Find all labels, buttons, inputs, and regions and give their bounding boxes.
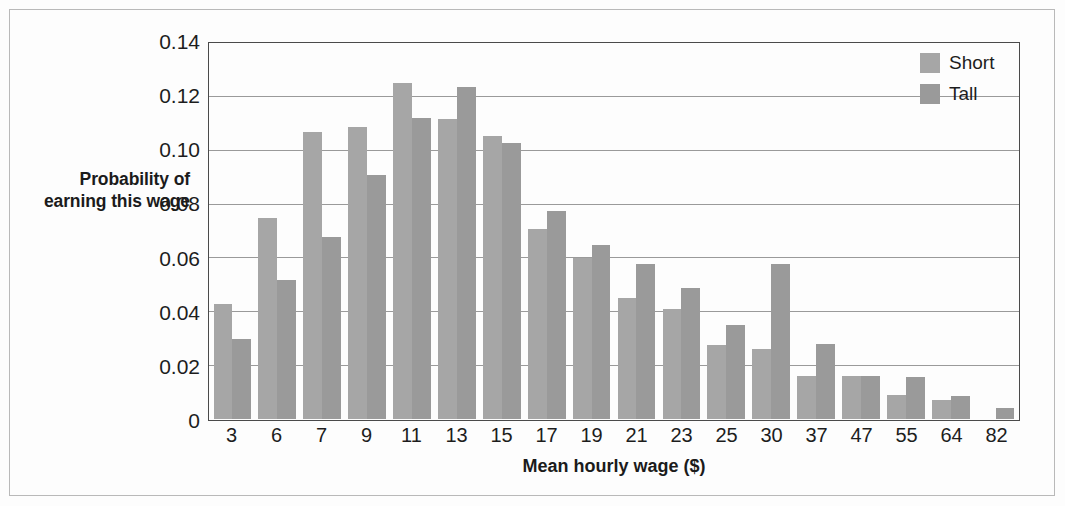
bar-group bbox=[255, 44, 300, 419]
bar-tall-9 bbox=[367, 175, 386, 419]
y-tick-label: 0.12 bbox=[138, 84, 200, 108]
bar-tall-82 bbox=[996, 408, 1015, 419]
bar-tall-21 bbox=[636, 264, 655, 419]
x-tick-label: 23 bbox=[659, 424, 704, 447]
bar-group bbox=[569, 44, 614, 419]
y-tick-label: 0 bbox=[138, 409, 200, 433]
plot-area bbox=[208, 42, 1020, 421]
y-tick-label: 0.14 bbox=[138, 30, 200, 54]
bar-group bbox=[345, 44, 390, 419]
x-tick-label: 17 bbox=[524, 424, 569, 447]
bar-tall-13 bbox=[457, 87, 476, 419]
plot-inner bbox=[209, 43, 1019, 420]
bar-short-21 bbox=[618, 298, 637, 419]
bar-tall-7 bbox=[322, 237, 341, 419]
y-tick-label: 0.08 bbox=[138, 192, 200, 216]
bar-group bbox=[749, 44, 794, 419]
bar-tall-17 bbox=[547, 211, 566, 419]
bar-short-25 bbox=[707, 345, 726, 419]
x-tick-label: 6 bbox=[254, 424, 299, 447]
legend-swatch-short bbox=[920, 53, 940, 73]
x-tick-label: 47 bbox=[839, 424, 884, 447]
x-axis-tick-labels: 36791113151719212325303747556482 bbox=[209, 424, 1019, 447]
bar-short-55 bbox=[887, 395, 906, 419]
bar-short-6 bbox=[258, 218, 277, 419]
bar-tall-15 bbox=[502, 143, 521, 419]
bar-group bbox=[210, 44, 255, 419]
y-tick-label: 0.02 bbox=[138, 355, 200, 379]
bar-short-3 bbox=[214, 304, 233, 419]
chart-legend: Short Tall bbox=[920, 52, 994, 105]
bar-groups bbox=[210, 44, 1018, 419]
y-axis-tick-labels: 00.020.040.060.080.100.120.14 bbox=[130, 42, 200, 421]
legend-item-tall: Tall bbox=[920, 83, 994, 105]
y-tick-label: 0.06 bbox=[138, 247, 200, 271]
bar-short-7 bbox=[303, 132, 322, 419]
x-tick-label: 11 bbox=[389, 424, 434, 447]
x-tick-label: 19 bbox=[569, 424, 614, 447]
x-tick-label: 55 bbox=[884, 424, 929, 447]
bar-group bbox=[524, 44, 569, 419]
bar-group bbox=[614, 44, 659, 419]
bar-short-23 bbox=[663, 309, 682, 419]
x-tick-label: 21 bbox=[614, 424, 659, 447]
bar-tall-30 bbox=[771, 264, 790, 419]
bar-short-9 bbox=[348, 127, 367, 419]
legend-label-short: Short bbox=[949, 52, 994, 74]
bar-short-30 bbox=[752, 349, 771, 419]
x-tick-label: 82 bbox=[974, 424, 1019, 447]
bar-tall-6 bbox=[277, 280, 296, 419]
bar-tall-55 bbox=[906, 377, 925, 419]
legend-label-tall: Tall bbox=[949, 83, 978, 105]
bar-tall-37 bbox=[816, 344, 835, 419]
bar-short-17 bbox=[528, 229, 547, 419]
bar-short-47 bbox=[842, 376, 861, 419]
bar-tall-25 bbox=[726, 325, 745, 419]
bar-tall-3 bbox=[232, 339, 251, 419]
bar-tall-23 bbox=[681, 288, 700, 419]
legend-item-short: Short bbox=[920, 52, 994, 74]
x-tick-label: 30 bbox=[749, 424, 794, 447]
bar-short-64 bbox=[932, 400, 951, 419]
x-tick-label: 15 bbox=[479, 424, 524, 447]
x-tick-label: 13 bbox=[434, 424, 479, 447]
x-tick-label: 7 bbox=[299, 424, 344, 447]
y-tick-label: 0.04 bbox=[138, 301, 200, 325]
bar-group bbox=[300, 44, 345, 419]
bar-tall-47 bbox=[861, 376, 880, 419]
bar-tall-19 bbox=[592, 245, 611, 419]
bar-short-19 bbox=[573, 258, 592, 419]
x-tick-label: 3 bbox=[209, 424, 254, 447]
bar-tall-11 bbox=[412, 118, 431, 419]
bar-group bbox=[794, 44, 839, 419]
bar-group bbox=[390, 44, 435, 419]
bar-group bbox=[704, 44, 749, 419]
bar-group bbox=[434, 44, 479, 419]
x-tick-label: 64 bbox=[929, 424, 974, 447]
bar-short-11 bbox=[393, 83, 412, 419]
bar-group bbox=[838, 44, 883, 419]
x-tick-label: 25 bbox=[704, 424, 749, 447]
x-tick-label: 37 bbox=[794, 424, 839, 447]
bar-tall-64 bbox=[951, 396, 970, 419]
bar-short-15 bbox=[483, 136, 502, 419]
y-tick-label: 0.10 bbox=[138, 138, 200, 162]
chart-page: Probability of earning this wage 00.020.… bbox=[0, 0, 1065, 506]
x-axis-title: Mean hourly wage ($) bbox=[208, 456, 1020, 477]
bar-group bbox=[479, 44, 524, 419]
bar-group bbox=[659, 44, 704, 419]
bar-short-13 bbox=[438, 119, 457, 419]
x-tick-label: 9 bbox=[344, 424, 389, 447]
legend-swatch-tall bbox=[920, 84, 940, 104]
bar-short-37 bbox=[797, 376, 816, 419]
